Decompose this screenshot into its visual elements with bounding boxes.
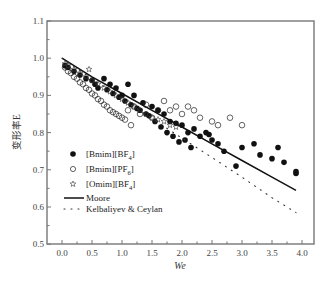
legend-label: [Bmim][BF4] [86,149,135,161]
y-tick-label: 0.8 [33,128,45,138]
data-point-bmim-bf4 [206,132,212,138]
legend-label: Kelbaliyev & Ceylan [86,204,163,214]
data-point-bmim-bf4 [293,169,299,175]
y-axis-label: 变形率E [11,114,22,150]
kelbaliyev-ceylan-line [62,58,296,212]
legend-open-circle-icon [70,166,75,171]
data-point-bmim-bf4 [275,145,281,151]
data-point-omim-bf4 [161,118,167,123]
data-point-bmim-bf4 [164,130,170,136]
data-point-bmim-bf4 [191,126,197,132]
data-point-bmim-pf6 [179,111,185,117]
data-point-bmim-bf4 [176,139,182,145]
data-point-bmim-pf6 [185,104,191,110]
data-point-bmim-bf4 [95,85,101,91]
data-point-bmim-pf6 [215,122,221,128]
x-tick-label: 3.5 [266,248,278,258]
x-tick-label: 0.5 [86,248,98,258]
data-point-bmim-pf6 [239,122,245,128]
data-point-bmim-bf4 [101,76,107,82]
data-point-bmim-bf4 [131,93,137,99]
data-point-bmim-bf4 [239,145,245,151]
y-axis-ticks: 0.50.60.70.80.91.01.1 [33,16,51,249]
model-lines [62,58,296,212]
data-point-bmim-pf6 [161,98,167,104]
y-tick-label: 0.5 [33,239,45,249]
data-point-bmim-pf6 [227,115,233,121]
legend: [Bmim][BF4][Bmim][PF6][Omim][BF4]MooreKe… [64,149,163,214]
x-tick-label: 1.0 [116,248,128,258]
legend-label: [Bmim][PF6] [86,164,134,176]
y-tick-label: 0.7 [33,165,45,175]
y-tick-label: 0.6 [33,202,45,212]
data-point-bmim-bf4 [233,163,239,169]
scatter-chart: 0.50.60.70.80.91.01.1 0.00.51.01.52.02.5… [0,0,327,287]
legend-filled-circle-icon [70,151,76,157]
x-tick-label: 2.5 [206,248,218,258]
legend-label: [Omim][BF4] [86,179,135,191]
x-tick-label: 0.0 [56,248,68,258]
data-point-bmim-bf4 [257,152,263,158]
x-tick-label: 3.0 [236,248,248,258]
y-tick-label: 0.9 [33,90,45,100]
data-point-bmim-pf6 [197,115,203,121]
data-point-bmim-pf6 [173,104,179,110]
data-point-bmim-bf4 [125,81,131,87]
data-point-bmim-pf6 [128,122,134,128]
data-point-bmim-bf4 [281,160,287,166]
data-point-bmim-pf6 [209,119,215,125]
legend-label: Moore [86,193,110,203]
data-point-bmim-pf6 [191,107,197,113]
data-point-bmim-pf6 [125,107,131,113]
data-point-bmim-bf4 [251,141,257,147]
data-point-bmim-bf4 [170,134,176,140]
y-tick-label: 1.0 [33,53,45,63]
x-axis-label: We [174,261,185,271]
y-tick-label: 1.1 [33,16,44,26]
data-point-omim-bf4 [86,66,92,71]
data-point-bmim-bf4 [269,156,275,162]
x-tick-label: 4.0 [296,248,308,258]
x-tick-label: 2.0 [176,248,188,258]
legend-star-icon [70,181,76,186]
data-point-bmim-bf4 [188,145,194,151]
data-point-bmim-pf6 [167,107,173,113]
x-axis-ticks: 0.00.51.01.52.02.53.03.54.0 [56,240,308,258]
x-tick-label: 1.5 [146,248,158,258]
